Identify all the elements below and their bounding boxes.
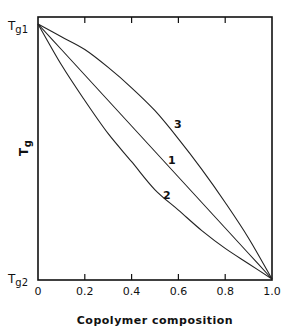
top-ticks xyxy=(85,17,225,23)
x-tick-labels: 0 0.2 0.4 0.6 0.8 1.0 xyxy=(35,285,281,298)
curve-1 xyxy=(38,24,272,279)
x-tick-1-0: 1.0 xyxy=(263,285,281,298)
x-tick-0-8: 0.8 xyxy=(216,285,234,298)
bottom-ticks xyxy=(85,274,225,280)
x-axis-title: Copolymer composition xyxy=(77,314,233,327)
y-bottom-label: Tg2 xyxy=(7,272,28,288)
curve-3-label: 3 xyxy=(174,118,182,131)
curve-1-label: 1 xyxy=(168,154,176,167)
x-tick-0: 0 xyxy=(35,285,42,298)
y-axis-title: Tg xyxy=(17,140,33,156)
y-top-label: Tg1 xyxy=(7,19,28,35)
x-tick-0-6: 0.6 xyxy=(170,285,188,298)
chart: 3 1 2 Tg1 Tg2 Tg 0 0.2 0.4 0.6 0.8 1.0 C… xyxy=(0,0,291,329)
x-tick-0-2: 0.2 xyxy=(76,285,94,298)
curve-2-label: 2 xyxy=(163,189,171,202)
x-tick-0-4: 0.4 xyxy=(123,285,141,298)
